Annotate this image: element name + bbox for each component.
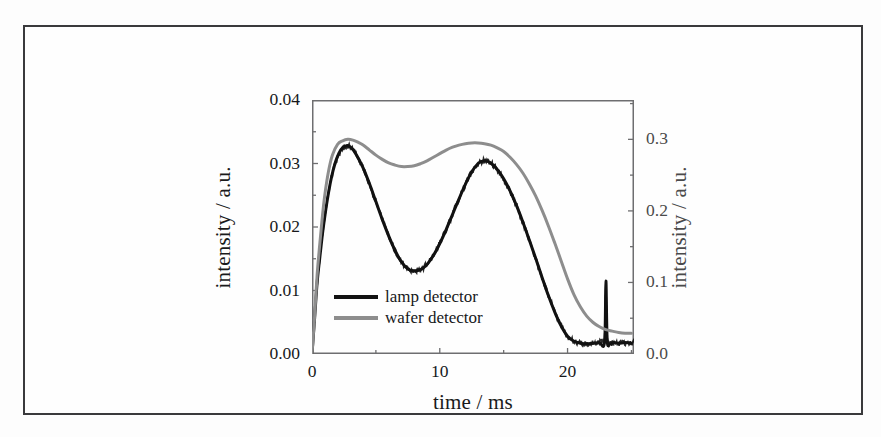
- legend-item-wafer-detector: wafer detector: [334, 307, 509, 328]
- x-axis-tick-0: 0: [282, 361, 342, 382]
- figure-outer-border: 0.000.010.020.030.04 0.00.10.20.3 01020 …: [23, 25, 863, 415]
- x-axis-title: time / ms: [312, 390, 634, 415]
- y-axis-left-tick-1: 0.01: [240, 280, 300, 301]
- legend-label-lamp-detector: lamp detector: [385, 287, 478, 307]
- legend-swatch-wafer-detector: [334, 316, 378, 320]
- x-axis-tick-1: 10: [410, 361, 470, 382]
- plot-area: 0.000.010.020.030.04 0.00.10.20.3 01020 …: [312, 100, 634, 354]
- legend-label-wafer-detector: wafer detector: [385, 308, 483, 328]
- legend-item-lamp-detector: lamp detector: [334, 286, 509, 307]
- legend-swatch-lamp-detector: [334, 295, 378, 299]
- figure-panel: 0.000.010.020.030.04 0.00.10.20.3 01020 …: [0, 0, 881, 437]
- x-axis-tick-2: 20: [538, 361, 598, 382]
- y-axis-left-tick-4: 0.04: [240, 89, 300, 110]
- y-axis-left-title: intensity / a.u.: [211, 105, 236, 350]
- y-axis-left-tick-3: 0.03: [240, 153, 300, 174]
- y-axis-left-tick-2: 0.02: [240, 216, 300, 237]
- chart-legend: lamp detector wafer detector: [334, 286, 509, 328]
- y-axis-right-title: intensity / a.u.: [667, 105, 692, 350]
